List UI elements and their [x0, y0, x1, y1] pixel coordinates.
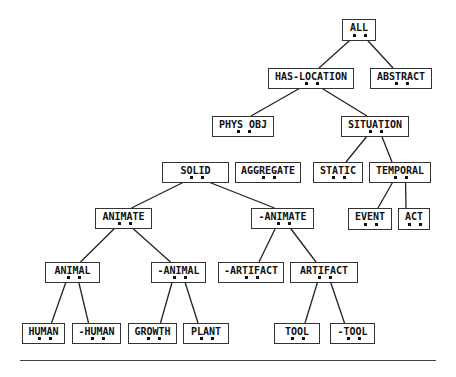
connector-dot-icon — [248, 130, 251, 133]
node-label: ALL — [343, 22, 375, 33]
connector-dot-icon — [318, 276, 321, 279]
node-label: -TOOL — [331, 326, 374, 337]
connector-dot-icon — [364, 223, 367, 226]
node-neg-human: -HUMAN — [72, 323, 121, 344]
edge-animate-animal — [81, 225, 119, 262]
edge-all-has_location — [319, 37, 354, 68]
edge-artifact-tool — [305, 279, 319, 323]
connector-dot-icon — [288, 222, 291, 225]
edge-animal-neg_human — [78, 279, 89, 323]
node-label: TEMPORAL — [370, 165, 430, 176]
edge-has_location-situation — [317, 85, 368, 116]
node-label: AGGREGATE — [236, 165, 300, 176]
connector-dot-icon — [173, 276, 176, 279]
connector-dot-icon — [302, 337, 305, 340]
type-hierarchy-diagram: ALLHAS-LOCATIONABSTRACTPHYS OBJSITUATION… — [0, 0, 456, 377]
node-act: ACT — [398, 208, 430, 230]
connector-dot-icon — [369, 130, 372, 133]
edge-neg_animate-neg_artifact — [259, 225, 277, 262]
node-label: ARTIFACT — [291, 265, 357, 276]
node-label: -ANIMATE — [252, 211, 313, 222]
connector-dot-icon — [91, 337, 94, 340]
node-temporal: TEMPORAL — [369, 162, 431, 183]
connector-dot-icon — [237, 130, 240, 133]
connector-dot-icon — [190, 176, 193, 179]
node-abstract: ABSTRACT — [370, 68, 432, 89]
node-label: ANIMAL — [46, 265, 99, 276]
edge-animal-human — [52, 279, 68, 323]
edge-neg_animal-plant — [184, 279, 198, 323]
node-label: EVENT — [349, 211, 391, 222]
tree-edges — [0, 0, 456, 377]
connector-dot-icon — [211, 337, 214, 340]
node-situation: SITUATION — [341, 116, 409, 137]
connector-dot-icon — [38, 337, 41, 340]
connector-dot-icon — [405, 176, 408, 179]
connector-dot-icon — [277, 222, 280, 225]
connector-dot-icon — [200, 337, 203, 340]
edge-neg_animate-artifact — [288, 225, 316, 262]
connector-dot-icon — [347, 337, 350, 340]
edge-has_location-phys_obj — [251, 85, 306, 116]
connector-dot-icon — [129, 222, 132, 225]
node-label: -ANIMAL — [152, 265, 205, 276]
node-animate: ANIMATE — [95, 208, 152, 229]
edge-situation-temporal — [381, 133, 393, 162]
node-label: PHYS OBJ — [213, 119, 273, 130]
node-neg-animate: -ANIMATE — [251, 208, 314, 229]
connector-dot-icon — [184, 276, 187, 279]
connector-dot-icon — [408, 223, 411, 226]
node-plant: PLANT — [183, 323, 229, 344]
node-label: TOOL — [275, 326, 319, 337]
connector-dot-icon — [262, 176, 265, 179]
edge-temporal-event — [378, 179, 395, 208]
node-phys-obj: PHYS OBJ — [212, 116, 274, 137]
edge-all-abstract — [365, 37, 394, 68]
node-all: ALL — [342, 19, 376, 41]
connector-dot-icon — [147, 337, 150, 340]
node-growth: GROWTH — [128, 323, 177, 344]
connector-dot-icon — [291, 337, 294, 340]
connector-dot-icon — [353, 34, 356, 37]
edge-neg_animal-growth — [161, 279, 174, 323]
connector-dot-icon — [332, 176, 335, 179]
connector-dot-icon — [158, 337, 161, 340]
connector-dot-icon — [102, 337, 105, 340]
node-label: GROWTH — [129, 326, 176, 337]
node-human: HUMAN — [22, 323, 65, 344]
connector-dot-icon — [245, 276, 248, 279]
node-artifact: ARTIFACT — [290, 262, 358, 283]
connector-dot-icon — [419, 223, 422, 226]
connector-dot-icon — [395, 82, 398, 85]
connector-dot-icon — [118, 222, 121, 225]
connector-dot-icon — [329, 276, 332, 279]
bottom-rule — [20, 360, 436, 361]
node-event: EVENT — [348, 208, 392, 230]
node-label: ANIMATE — [96, 211, 151, 222]
connector-dot-icon — [364, 34, 367, 37]
edge-solid-neg_animate — [201, 179, 275, 208]
node-aggregate: AGGREGATE — [235, 162, 301, 183]
node-solid: SOLID — [162, 162, 229, 183]
node-animal: ANIMAL — [45, 262, 100, 283]
connector-dot-icon — [358, 337, 361, 340]
edge-artifact-neg_tool — [330, 279, 345, 323]
connector-dot-icon — [316, 82, 319, 85]
connector-dot-icon — [343, 176, 346, 179]
connector-dot-icon — [375, 223, 378, 226]
node-tool: TOOL — [274, 323, 320, 344]
node-label: STATIC — [314, 165, 362, 176]
connector-dot-icon — [201, 176, 204, 179]
node-has-location: HAS-LOCATION — [268, 68, 354, 89]
node-label: ACT — [399, 211, 429, 222]
node-neg-animal: -ANIMAL — [151, 262, 206, 283]
edge-situation-static — [346, 133, 370, 162]
node-label: HAS-LOCATION — [269, 71, 353, 82]
connector-dot-icon — [78, 276, 81, 279]
connector-dot-icon — [49, 337, 52, 340]
node-label: PLANT — [184, 326, 228, 337]
node-label: -ARTIFACT — [219, 265, 283, 276]
node-label: SOLID — [163, 165, 228, 176]
node-neg-artifact: -ARTIFACT — [218, 262, 284, 283]
node-static: STATIC — [313, 162, 363, 183]
